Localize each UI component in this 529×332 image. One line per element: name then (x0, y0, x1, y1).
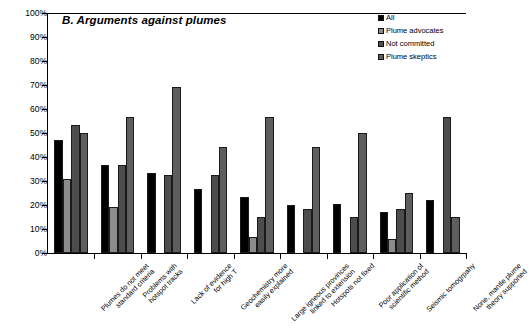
x-axis-label: Geochemistry moreeasily explained (239, 262, 295, 318)
x-axis-label-line: Plumes do not meet (100, 262, 151, 313)
x-axis-label: Lack of evidencefor high T (190, 262, 240, 312)
x-axis-label-line: None, mantle plume (472, 262, 523, 313)
x-axis-label-line: linked to extension (296, 268, 357, 329)
x-axis-label: Seismic tomogrpahy (425, 262, 477, 314)
x-axis-label-line: Seismic tomogrpahy (425, 262, 477, 314)
x-axis-label: None, mantle plumetheory supported (472, 262, 529, 319)
x-axis-label: Poor application ofscientific method (377, 262, 431, 316)
